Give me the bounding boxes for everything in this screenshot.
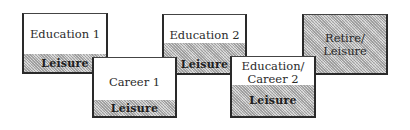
leisure-label: Leisure — [111, 102, 158, 115]
leisure-band: Leisure — [232, 85, 314, 116]
stage-title: Education 1 — [24, 28, 106, 41]
leisure-label: Leisure — [181, 58, 228, 71]
leisure-label: Leisure — [41, 57, 88, 70]
stage-box-career-1: Career 1 Leisure — [92, 57, 177, 118]
stage-title: Education 2 — [164, 29, 245, 42]
stage-title-line-2: Leisure — [304, 45, 386, 58]
stage-title: Education/ Career 2 — [232, 60, 314, 86]
stage-title: Retire/ Leisure — [304, 32, 386, 58]
leisure-band: Leisure — [94, 100, 175, 116]
leisure-label: Leisure — [249, 94, 296, 107]
stage-title: Career 1 — [94, 76, 175, 89]
stage-box-education-career-2: Education/ Career 2 Leisure — [230, 56, 316, 118]
